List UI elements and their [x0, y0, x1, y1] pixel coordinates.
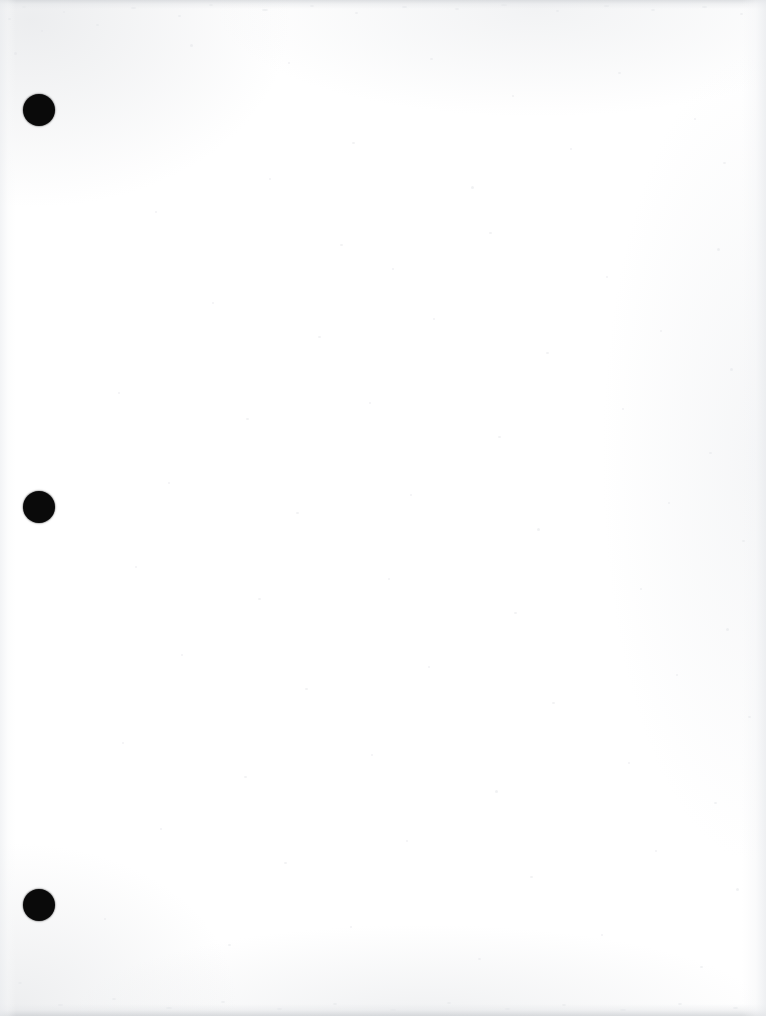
- scan-band-top-edge: [0, 0, 766, 9]
- scan-band-left-edge: [0, 0, 16, 1016]
- scanned-page: [0, 0, 766, 1016]
- scan-band-bottom-edge: [0, 1004, 766, 1016]
- scan-band-right-edge: [742, 0, 766, 1016]
- punch-hole-top: [23, 94, 55, 126]
- punch-hole-middle: [23, 491, 55, 523]
- punch-hole-bottom: [23, 889, 55, 921]
- paper-background: [0, 0, 766, 1016]
